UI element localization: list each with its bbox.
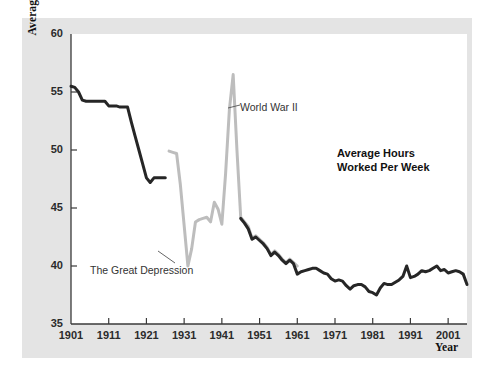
y-tick-label: 45 (37, 201, 63, 213)
annotation-world-war-ii: World War II (240, 101, 298, 113)
x-axis-title: Year (435, 341, 458, 353)
chart-title-line2: Worked Per Week (337, 160, 430, 174)
annotation-great-depression: The Great Depression (90, 264, 193, 276)
x-tick-label: 2001 (426, 329, 470, 341)
chart-title-line1: Average Hours (337, 146, 430, 160)
y-tick-label: 40 (37, 259, 63, 271)
chart-title: Average Hours Worked Per Week (337, 146, 430, 174)
plot-area-background (71, 34, 467, 324)
y-tick-label: 55 (37, 85, 63, 97)
y-tick-label: 60 (37, 27, 63, 39)
y-tick-label: 50 (37, 143, 63, 155)
y-tick-label: 35 (37, 317, 63, 329)
